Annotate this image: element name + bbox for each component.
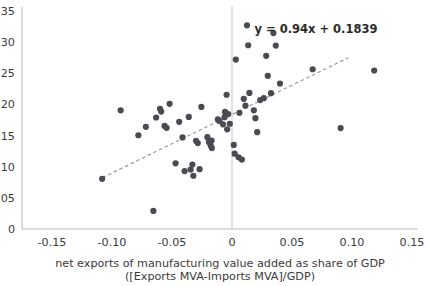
data-point	[236, 110, 242, 116]
data-point	[118, 107, 124, 113]
data-point	[246, 90, 252, 96]
y-axis-tick-label: 0.20	[0, 98, 15, 111]
data-point	[338, 125, 344, 131]
data-point	[198, 104, 204, 110]
data-point	[252, 115, 258, 121]
y-axis-tick-label: 0.05	[0, 192, 15, 205]
data-point	[310, 66, 316, 72]
y-axis-tick-label: 0.25	[0, 67, 15, 80]
data-point	[158, 108, 164, 114]
data-point	[241, 96, 247, 102]
y-axis-tick-label: 0.15	[0, 130, 15, 143]
data-point	[99, 176, 105, 182]
data-point	[220, 121, 226, 127]
data-point	[227, 121, 233, 127]
x-axis-tick-label: -0.15	[38, 236, 67, 249]
data-point	[153, 114, 159, 120]
data-point	[189, 161, 195, 167]
data-point	[265, 73, 271, 79]
data-point	[371, 67, 377, 73]
data-point	[186, 114, 192, 120]
data-point	[225, 111, 231, 117]
x-axis-title-line1: net exports of manufacturing value added…	[55, 257, 385, 270]
data-point	[167, 101, 173, 107]
data-point	[150, 208, 156, 214]
data-point	[182, 168, 188, 174]
data-point	[190, 173, 196, 179]
data-point	[231, 142, 237, 148]
data-point	[239, 156, 245, 162]
data-point	[261, 95, 267, 101]
x-axis-tick-label: -0.10	[98, 236, 127, 249]
x-axis-tick-label: 0.05	[280, 236, 305, 249]
y-axis-tick-label: 0.30	[0, 36, 15, 49]
y-axis-tick-label: 0.35	[0, 5, 15, 18]
x-axis-tick-label: 0.15	[400, 236, 425, 249]
regression-equation: y = 0.94x + 0.1839	[255, 22, 378, 36]
data-point	[195, 140, 201, 146]
x-axis-tick-label: 0	[228, 236, 235, 249]
y-axis-tick-label: 0	[8, 223, 15, 236]
data-point	[224, 92, 230, 98]
data-point	[244, 22, 250, 28]
scatter-chart: 00.050.100.150.200.250.300.35-0.15-0.10-…	[0, 0, 430, 286]
data-point	[173, 160, 179, 166]
data-point	[197, 166, 203, 172]
x-axis-tick-label: -0.05	[158, 236, 187, 249]
plot-area: 00.050.100.150.200.250.300.35-0.15-0.10-…	[0, 0, 430, 286]
data-point	[233, 56, 239, 62]
data-point	[277, 80, 283, 86]
data-point	[135, 132, 141, 138]
data-point	[242, 103, 248, 109]
data-point	[209, 137, 215, 143]
data-point	[164, 125, 170, 131]
x-axis-title-line2: ([Exports MVA-Imports MVA]/GDP)	[125, 270, 315, 283]
y-axis-tick-label: 0.10	[0, 161, 15, 174]
data-point	[143, 124, 149, 130]
data-point	[245, 42, 251, 48]
data-point	[209, 145, 215, 151]
data-point	[273, 42, 279, 48]
data-point	[179, 134, 185, 140]
data-point	[254, 129, 260, 135]
data-point	[263, 53, 269, 59]
data-point	[251, 107, 257, 113]
data-point	[176, 119, 182, 125]
x-axis-tick-label: 0.10	[340, 236, 365, 249]
data-point	[224, 126, 230, 132]
data-point	[268, 90, 274, 96]
